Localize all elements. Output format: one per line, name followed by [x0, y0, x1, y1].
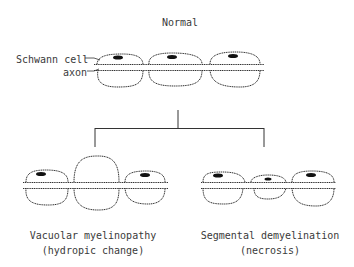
normal-nuclei — [113, 54, 238, 60]
segmental-demyelination-label: Segmental demyelination — [195, 230, 345, 241]
branch-connector — [95, 110, 264, 147]
hydropic-change-label: (hydropic change) — [18, 245, 168, 256]
nerve-diagram — [0, 0, 354, 267]
necrosis-label: (necrosis) — [195, 245, 345, 256]
vacuolar-myelinopathy-label: Vacuolar myelinopathy — [18, 230, 168, 241]
segmental-nuclei — [213, 173, 316, 181]
vacuolar-nerve-fiber — [23, 156, 168, 210]
